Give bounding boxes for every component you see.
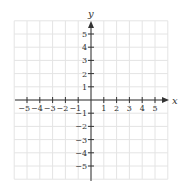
y-tick-label: −3 — [75, 136, 87, 145]
y-tick-label: −5 — [75, 162, 87, 171]
x-tick-label: 3 — [127, 104, 132, 113]
y-axis-label: y — [87, 8, 94, 19]
y-tick-label: −2 — [75, 122, 87, 131]
x-tick-label: −3 — [44, 104, 56, 113]
y-tick-label: 3 — [82, 56, 87, 65]
x-tick-label: 4 — [140, 104, 145, 113]
y-axis-arrow-icon — [88, 21, 94, 28]
x-tick-labels: −5−4−3−2−112345 — [18, 104, 157, 113]
y-tick-label: −1 — [75, 109, 87, 118]
x-tick-label: 5 — [152, 104, 157, 113]
coordinate-plane: x y −5−4−3−2−112345 −5−4−3−2−112345 — [0, 0, 186, 191]
y-tick-label: 1 — [82, 83, 87, 92]
y-tick-label: 5 — [82, 30, 87, 39]
x-tick-label: −2 — [57, 104, 69, 113]
x-tick-label: −5 — [18, 104, 30, 113]
x-tick-label: 2 — [114, 104, 119, 113]
y-tick-label: −4 — [75, 149, 87, 158]
x-tick-label: 1 — [101, 104, 106, 113]
y-tick-label: 4 — [82, 43, 87, 52]
y-tick-label: 2 — [82, 70, 87, 79]
x-tick-label: −4 — [31, 104, 43, 113]
x-axis-label: x — [172, 95, 178, 106]
